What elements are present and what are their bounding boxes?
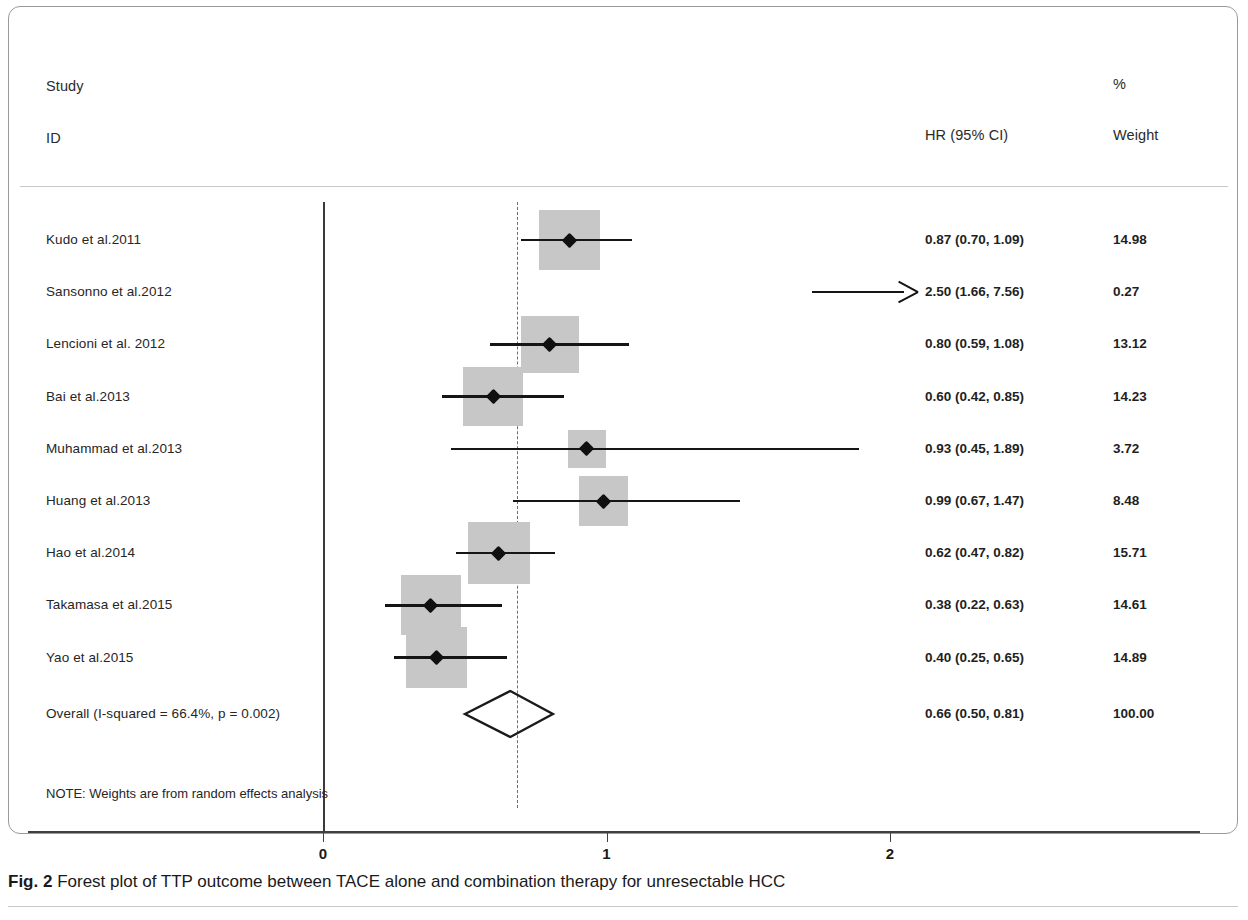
weight-value: 14.98 (1113, 232, 1147, 247)
confidence-interval-line (490, 343, 629, 345)
weight-value: 14.89 (1113, 650, 1147, 665)
study-label: Bai et al.2013 (46, 389, 130, 404)
confidence-interval-arrow-line (812, 291, 904, 293)
confidence-interval-line (394, 656, 507, 658)
study-label: Hao et al.2014 (46, 545, 135, 560)
study-label: Kudo et al.2011 (46, 232, 141, 247)
overall-label: Overall (I-squared = 66.4%, p = 0.002) (46, 706, 280, 721)
column-header-id: ID (46, 130, 61, 146)
weight-value: 15.71 (1113, 545, 1147, 560)
weight-value: 14.61 (1113, 597, 1147, 612)
study-label: Sansonno et al.2012 (46, 284, 172, 299)
weights-note: NOTE: Weights are from random effects an… (46, 786, 328, 801)
x-axis-tick (890, 831, 891, 842)
column-header-study: Study (46, 78, 84, 94)
effect-estimate-value: 0.80 (0.59, 1.08) (925, 336, 1024, 351)
study-label: Takamasa et al.2015 (46, 597, 172, 612)
x-axis-tick (323, 831, 324, 842)
study-label: Lencioni et al. 2012 (46, 336, 165, 351)
weight-value: 13.12 (1113, 336, 1147, 351)
header-divider (20, 186, 1228, 187)
figure-caption: Fig. 2 Forest plot of TTP outcome betwee… (8, 872, 1238, 892)
study-label: Yao et al.2015 (46, 650, 133, 665)
study-label: Huang et al.2013 (46, 493, 150, 508)
column-header-weight: Weight (1113, 127, 1158, 143)
forest-plot-figure: Study ID HR (95% CI) % Weight Kudo et al… (0, 0, 1248, 920)
effect-estimate-value: 0.40 (0.25, 0.65) (925, 650, 1024, 665)
x-axis-tick (607, 831, 608, 842)
effect-estimate-value: 2.50 (1.66, 7.56) (925, 284, 1024, 299)
plot-area: Study ID HR (95% CI) % Weight Kudo et al… (0, 0, 1248, 840)
overall-weight-value: 100.00 (1113, 706, 1154, 721)
overall-effect-estimate-value: 0.66 (0.50, 0.81) (925, 706, 1024, 721)
column-header-percent: % (1113, 76, 1126, 92)
confidence-interval-line (451, 448, 859, 450)
effect-estimate-value: 0.99 (0.67, 1.47) (925, 493, 1024, 508)
effect-estimate-value: 0.87 (0.70, 1.09) (925, 232, 1024, 247)
caption-divider (8, 906, 1238, 907)
figure-caption-text: Forest plot of TTP outcome between TACE … (57, 872, 785, 891)
confidence-interval-line (513, 500, 740, 502)
confidence-interval-line (442, 395, 564, 397)
x-axis-tick-label: 0 (319, 845, 327, 862)
x-axis-tick-label: 2 (886, 845, 894, 862)
weight-value: 8.48 (1113, 493, 1139, 508)
pooled-estimate-diamond (461, 687, 557, 741)
null-effect-line (323, 202, 325, 832)
study-label: Muhammad et al.2013 (46, 441, 182, 456)
weight-value: 0.27 (1113, 284, 1139, 299)
effect-estimate-value: 0.93 (0.45, 1.89) (925, 441, 1024, 456)
confidence-interval-line (385, 604, 501, 606)
weight-value: 14.23 (1113, 389, 1147, 404)
effect-estimate-value: 0.62 (0.47, 0.82) (925, 545, 1024, 560)
x-axis-tick-label: 1 (602, 845, 610, 862)
x-axis-line (28, 831, 1200, 833)
effect-estimate-value: 0.60 (0.42, 0.85) (925, 389, 1024, 404)
effect-estimate-value: 0.38 (0.22, 0.63) (925, 597, 1024, 612)
weight-value: 3.72 (1113, 441, 1139, 456)
figure-caption-prefix: Fig. 2 (8, 872, 52, 891)
column-header-effect: HR (95% CI) (925, 127, 1008, 143)
